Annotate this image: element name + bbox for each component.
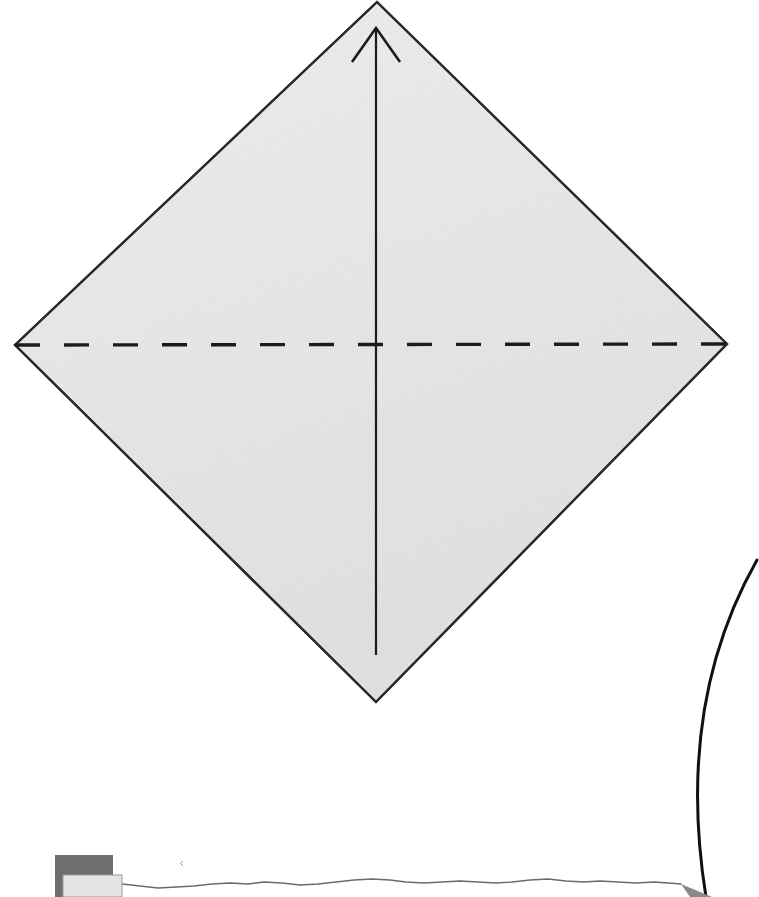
paper-sheet-group [0,0,759,897]
origami-diagram-svg [0,0,759,897]
paper-grain-texture [0,0,759,897]
swatch-light [63,875,122,897]
baseline-wedge [681,884,712,897]
horizon-wavy-line [122,879,681,888]
valley-fold-dashed-line [15,344,727,345]
stray-tick-mark [180,863,183,866]
stray-speck-mark [181,861,183,863]
diagram-canvas: Origami kite base valley-fold step [0,0,759,897]
background-arc-curve [697,560,757,897]
swatch-group [55,855,122,897]
